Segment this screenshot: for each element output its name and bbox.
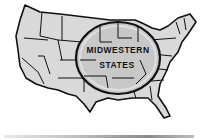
us-map-icon (0, 0, 208, 140)
bottom-divider (4, 135, 194, 138)
lens-label-line2: STATES (94, 60, 140, 70)
us-map-illustration: MIDWESTERN STATES (0, 0, 208, 140)
lens-label-line1: MIDWESTERN (80, 45, 156, 55)
